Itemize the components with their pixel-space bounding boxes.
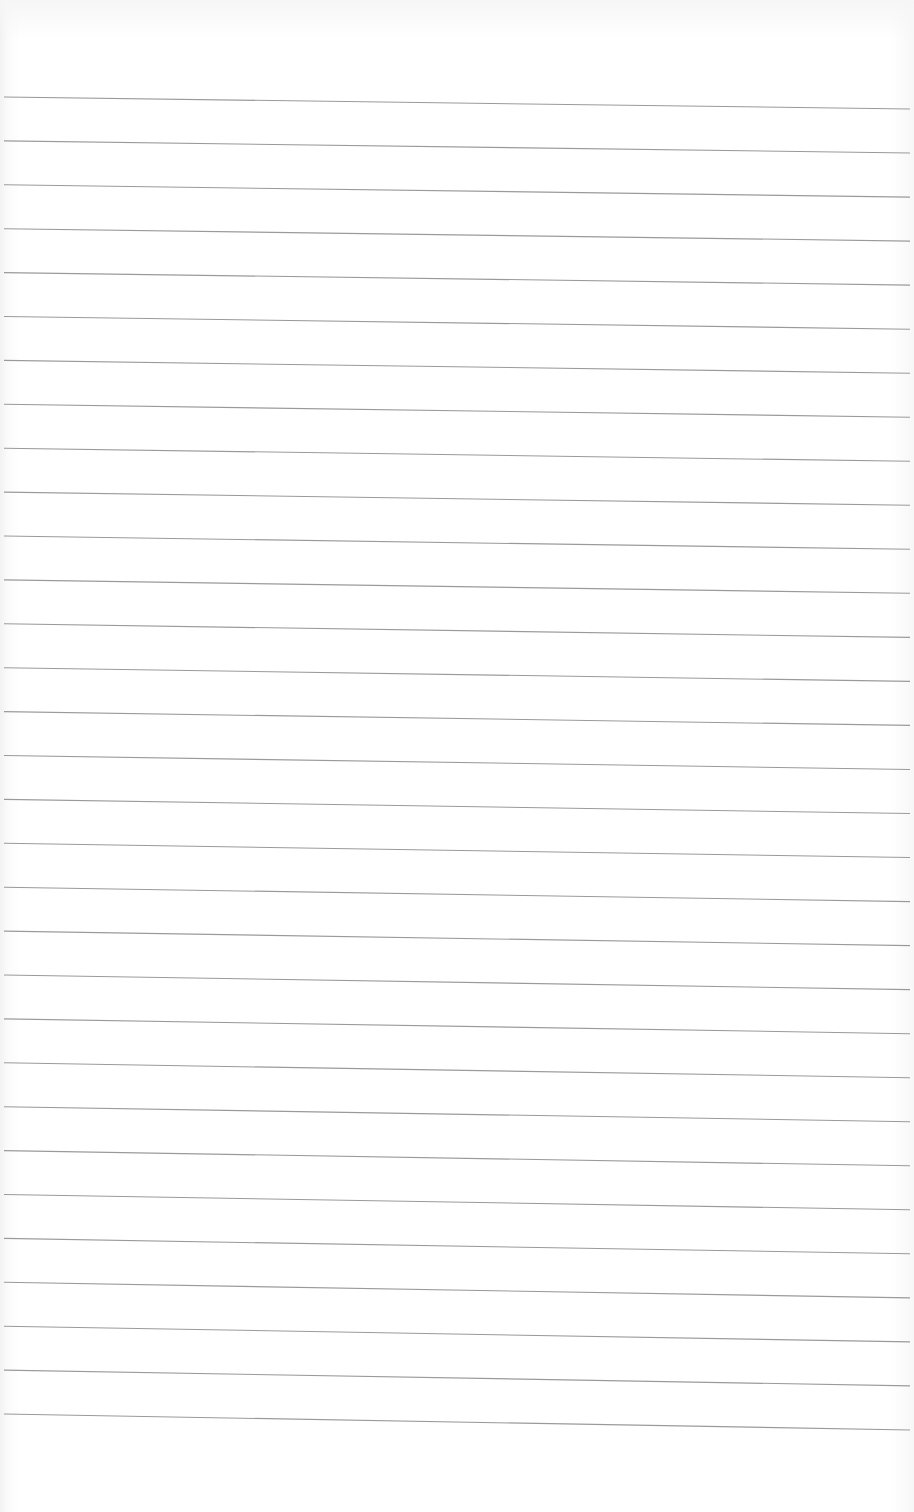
ruled-line [4,624,910,638]
ruled-line [4,1151,910,1166]
ruled-line [4,404,910,417]
ruled-line [4,536,910,549]
ruled-line [4,1414,910,1430]
ruled-line [4,185,910,197]
ruled-line [4,141,910,153]
ruled-line [4,887,910,901]
ruled-line [4,931,910,946]
lined-paper-page [0,0,914,1512]
ruled-lines [0,0,914,1512]
ruled-line [4,712,910,726]
ruled-line [4,97,910,109]
ruled-line [4,229,910,241]
ruled-line [4,317,910,330]
ruled-line [4,273,910,286]
ruled-line [4,668,910,682]
ruled-line [4,1370,910,1386]
ruled-line [4,1107,910,1122]
ruled-line [4,1063,910,1078]
ruled-line [4,492,910,505]
ruled-line [4,1326,910,1342]
ruled-line [4,1238,910,1253]
ruled-line [4,975,910,990]
ruled-line [4,1282,910,1298]
ruled-line [4,360,910,373]
ruled-line [4,756,910,770]
ruled-line [4,843,910,857]
ruled-line [4,580,910,593]
ruled-line [4,1195,910,1210]
ruled-line [4,799,910,813]
ruled-line [4,448,910,461]
ruled-line [4,1019,910,1034]
